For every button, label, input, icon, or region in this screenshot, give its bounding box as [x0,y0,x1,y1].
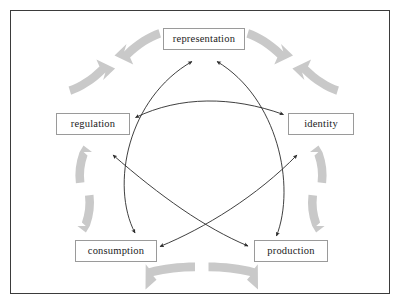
inner-arrow-consumption-representation [124,62,192,234]
outer-arrow-representation-identity [247,29,339,94]
inner-arrow-regulation-identity [136,101,284,118]
node-regulation[interactable]: regulation [56,113,130,135]
node-identity-label: identity [302,119,340,130]
inner-arrow-group [113,62,297,247]
inner-arrow-consumption-identity [160,155,297,247]
diagram-page: representation identity production consu… [0,0,402,308]
node-representation[interactable]: representation [163,28,245,50]
node-consumption-label: consumption [86,246,146,257]
outer-arrow-identity-production [308,146,327,233]
node-representation-label: representation [171,34,237,45]
node-production[interactable]: production [254,240,328,262]
outer-arrow-consumption-regulation [75,146,94,233]
inner-arrow-regulation-production [113,155,248,246]
outer-arrow-regulation-representation [69,29,161,94]
node-consumption[interactable]: consumption [75,240,157,262]
node-identity[interactable]: identity [288,113,354,135]
outer-arrow-production-consumption [146,263,259,290]
inner-arrow-production-representation [217,62,284,237]
node-production-label: production [265,246,317,257]
node-regulation-label: regulation [69,119,118,130]
